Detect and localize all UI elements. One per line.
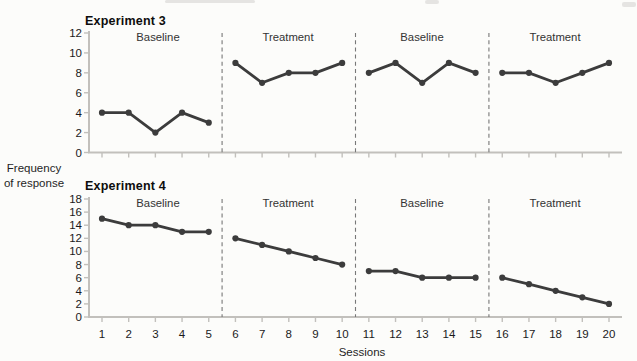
data-point-marker	[579, 70, 585, 76]
y-tick-label: 6	[76, 272, 82, 284]
data-point-marker	[419, 275, 425, 281]
data-point-marker	[259, 80, 265, 86]
y-tick-label: 4	[76, 107, 83, 119]
y-tick-label: 8	[76, 67, 82, 79]
data-point-marker	[446, 60, 452, 66]
data-point-marker	[339, 60, 345, 66]
data-point-marker	[152, 222, 158, 228]
y-tick-label: 4	[76, 285, 83, 297]
x-tick-label: 8	[286, 328, 292, 340]
data-point-marker	[152, 129, 158, 135]
data-point-marker	[232, 60, 238, 66]
x-tick-label: 19	[576, 328, 589, 340]
y-tick-label: 8	[76, 259, 82, 271]
data-point-marker	[472, 275, 478, 281]
data-point-marker	[499, 70, 505, 76]
x-tick-label: 4	[179, 328, 186, 340]
data-point-marker	[312, 70, 318, 76]
x-tick-label: 9	[312, 328, 318, 340]
x-tick-label: 20	[603, 328, 616, 340]
data-point-marker	[286, 248, 292, 254]
data-point-marker	[126, 222, 132, 228]
x-tick-label: 14	[442, 328, 455, 340]
data-point-marker	[499, 275, 505, 281]
y-tick-label: 16	[69, 206, 82, 218]
x-tick-label: 15	[469, 328, 482, 340]
data-point-marker	[179, 110, 185, 116]
y-tick-label: 18	[69, 193, 82, 205]
x-tick-label: 17	[523, 328, 536, 340]
data-point-marker	[126, 110, 132, 116]
x-tick-label: 10	[336, 328, 349, 340]
y-tick-label: 10	[69, 245, 82, 257]
data-point-marker	[392, 60, 398, 66]
x-tick-label: 7	[259, 328, 265, 340]
x-tick-label: 2	[125, 328, 131, 340]
x-tick-label: 12	[389, 328, 402, 340]
data-point-marker	[339, 261, 345, 267]
data-point-marker	[312, 255, 318, 261]
y-tick-label: 6	[76, 87, 82, 99]
experiment3-line-chart: 024681012	[0, 0, 637, 160]
figure-page: Experiment 3 Experiment 4 Frequency of r…	[0, 0, 637, 361]
x-tick-label: 5	[206, 328, 212, 340]
data-point-marker	[392, 268, 398, 274]
data-point-marker	[206, 120, 212, 126]
x-tick-label: 18	[549, 328, 562, 340]
data-point-marker	[606, 60, 612, 66]
data-point-marker	[179, 229, 185, 235]
data-point-marker	[553, 80, 559, 86]
x-tick-label: 11	[363, 328, 375, 340]
data-point-marker	[286, 70, 292, 76]
data-point-marker	[553, 288, 559, 294]
data-point-marker	[232, 235, 238, 241]
data-point-marker	[99, 110, 105, 116]
data-point-marker	[446, 275, 452, 281]
x-tick-label: 6	[232, 328, 238, 340]
experiment4-line-chart: 0246810121416181234567891011121314151617…	[0, 160, 637, 361]
y-tick-label: 10	[69, 47, 82, 59]
x-tick-label: 3	[152, 328, 158, 340]
data-point-marker	[259, 242, 265, 248]
data-point-marker	[472, 70, 478, 76]
y-tick-label: 0	[76, 147, 82, 159]
y-tick-label: 14	[69, 219, 82, 231]
x-tick-label: 1	[99, 328, 105, 340]
data-point-marker	[526, 281, 532, 287]
x-tick-label: 13	[416, 328, 429, 340]
y-tick-label: 12	[69, 232, 82, 244]
data-point-marker	[606, 301, 612, 307]
data-point-marker	[366, 268, 372, 274]
y-tick-label: 2	[76, 298, 82, 310]
data-point-marker	[206, 229, 212, 235]
data-point-marker	[526, 70, 532, 76]
y-tick-label: 2	[76, 127, 82, 139]
data-point-marker	[99, 216, 105, 222]
y-tick-label: 0	[76, 311, 82, 323]
data-point-marker	[579, 294, 585, 300]
x-tick-label: 16	[496, 328, 509, 340]
data-point-marker	[366, 70, 372, 76]
data-point-marker	[419, 80, 425, 86]
y-tick-label: 12	[69, 27, 82, 39]
